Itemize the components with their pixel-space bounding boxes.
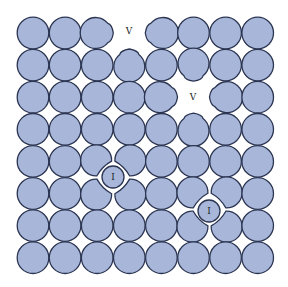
atom-layer bbox=[17, 17, 273, 273]
lattice-atom bbox=[242, 114, 274, 146]
lattice-atom bbox=[178, 242, 210, 274]
lattice-atom bbox=[210, 114, 242, 146]
lattice-atom bbox=[114, 114, 146, 146]
lattice-atom bbox=[210, 49, 242, 81]
lattice-atom bbox=[81, 114, 113, 146]
deformed-atom bbox=[114, 49, 145, 82]
lattice-atom bbox=[146, 242, 178, 274]
lattice-atom bbox=[17, 146, 49, 178]
lattice-atom bbox=[146, 178, 178, 210]
lattice-atom bbox=[210, 17, 242, 49]
lattice-atom bbox=[210, 242, 242, 274]
lattice-atom bbox=[146, 49, 178, 81]
lattice-atom bbox=[178, 17, 210, 49]
lattice-atom bbox=[242, 17, 274, 49]
lattice-atom bbox=[49, 242, 81, 274]
lattice-atom bbox=[114, 81, 146, 113]
lattice-atom bbox=[146, 146, 178, 178]
lattice-atom bbox=[17, 114, 49, 146]
lattice-atom bbox=[17, 242, 49, 274]
deformed-atom bbox=[145, 18, 178, 49]
lattice-atom bbox=[242, 242, 274, 274]
deformed-atom bbox=[144, 82, 177, 113]
lattice-atom bbox=[114, 242, 146, 274]
deformed-atom bbox=[209, 82, 242, 113]
lattice-atom bbox=[17, 210, 49, 242]
lattice-atom bbox=[49, 210, 81, 242]
interstitial-label: I bbox=[111, 172, 115, 182]
lattice-atom bbox=[17, 17, 49, 49]
lattice-atom bbox=[242, 146, 274, 178]
lattice-atom bbox=[17, 49, 49, 81]
lattice-atom bbox=[81, 242, 113, 274]
lattice-atom bbox=[242, 178, 274, 210]
lattice-atom bbox=[49, 17, 81, 49]
lattice-atom bbox=[178, 146, 210, 178]
deformed-atom bbox=[178, 48, 209, 81]
lattice-svg: V V I I bbox=[0, 0, 288, 287]
lattice-atom bbox=[146, 210, 178, 242]
lattice-atom bbox=[17, 178, 49, 210]
lattice-atom bbox=[242, 49, 274, 81]
lattice-atom bbox=[210, 146, 242, 178]
lattice-atom bbox=[49, 49, 81, 81]
lattice-atom bbox=[49, 81, 81, 113]
interstitial-label: I bbox=[207, 206, 211, 216]
lattice-atom bbox=[49, 146, 81, 178]
vacancy-label: V bbox=[189, 92, 197, 102]
deformed-atom bbox=[80, 18, 113, 49]
lattice-atom bbox=[49, 178, 81, 210]
lattice-atom bbox=[114, 210, 146, 242]
lattice-atom bbox=[49, 114, 81, 146]
deformed-atom bbox=[178, 113, 209, 146]
lattice-atom bbox=[242, 210, 274, 242]
lattice-defects-diagram: V V I I bbox=[0, 0, 288, 287]
lattice-atom bbox=[17, 81, 49, 113]
lattice-atom bbox=[81, 81, 113, 113]
vacancy-label: V bbox=[125, 26, 133, 36]
lattice-atom bbox=[146, 114, 178, 146]
lattice-atom bbox=[242, 81, 274, 113]
lattice-atom bbox=[81, 49, 113, 81]
lattice-atom bbox=[81, 210, 113, 242]
